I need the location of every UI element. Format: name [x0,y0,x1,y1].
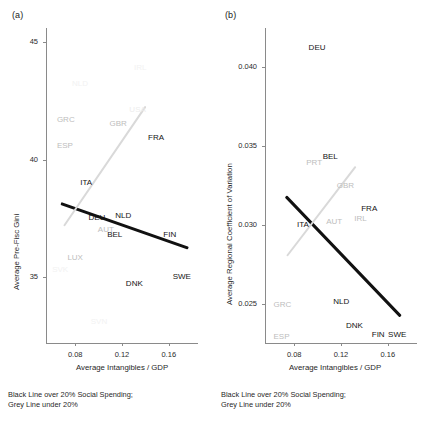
data-point-irl: IRL [134,64,146,72]
data-point-bel: BEL [323,153,338,161]
data-point-irl: IRL [354,215,366,223]
panel-a-y-tick [43,277,46,278]
panel-b-grey-trend [286,165,357,256]
panel-a-y-tick-label: 45 [0,37,38,46]
data-point-prt: PRT [306,159,322,167]
data-point-gbr: GBR [109,120,126,128]
panel-a-y-tick [43,160,46,161]
panel-a-caption-line2: Grey Line under 20% [8,400,78,411]
panel-a-x-tick-label: 0.08 [55,350,95,359]
panel-b-x-tick-label: 0.12 [321,350,361,359]
data-point-esp: ESP [274,333,290,341]
panel-b-y-axis-title: Average Regional Coefficient of Variatio… [225,163,234,305]
panel-a-y-tick-label: 35 [0,272,38,281]
panel-a-plot-area: 3540450.080.120.16IRLNLDUSAGRCGBRFRAESPI… [46,28,198,343]
panel-b-y-tick [262,304,265,305]
panel-b-y-tick [262,225,265,226]
panel-a: (a) Average Pre-Fisc Gini 3540450.080.12… [0,0,213,421]
data-point-grc: GRC [57,116,75,124]
panel-a-x-tick-label: 0.12 [102,350,142,359]
data-point-fin: FIN [372,331,385,339]
data-point-esp: ESP [57,142,73,150]
data-point-fin: FIN [163,231,176,239]
panel-b: (b) Average Regional Coefficient of Vari… [213,0,426,421]
data-point-aut: AUT [326,218,342,226]
figure-root: (a) Average Pre-Fisc Gini 3540450.080.12… [0,0,426,421]
panel-b-y-tick-label: 0.030 [217,220,257,229]
data-point-fra: FRA [148,134,164,142]
panel-a-tag: (a) [12,10,23,20]
panel-b-x-tick [388,343,389,346]
panel-b-x-tick-label: 0.08 [274,350,314,359]
panel-b-y-tick [262,146,265,147]
data-point-swe: SWE [173,273,191,281]
data-point-dnk: DNK [126,280,143,288]
panel-b-y-tick-label: 0.035 [217,141,257,150]
data-point-svn: SVN [91,318,107,326]
panel-b-x-tick-label: 0.16 [368,350,408,359]
data-point-dnk: DNK [346,322,363,330]
data-point-grc: GRC [274,301,292,309]
panel-a-y-tick [43,42,46,43]
data-point-fra: FRA [361,205,377,213]
panel-b-y-tick-label: 0.040 [217,62,257,71]
data-point-gbr: GBR [337,182,354,190]
panel-b-y-axis-line [265,28,266,343]
panel-a-x-tick-label: 0.16 [149,350,189,359]
data-point-bel: BEL [107,231,122,239]
panel-a-y-tick-label: 40 [0,155,38,164]
data-point-swe: SWE [388,331,406,339]
panel-a-x-tick [75,343,76,346]
panel-b-x-axis-title: Average Intangibles / GDP [289,363,381,372]
data-point-lux: LUX [67,254,83,262]
panel-b-x-tick [294,343,295,346]
panel-a-black-trend [61,202,189,249]
panel-b-y-tick-label: 0.025 [217,299,257,308]
data-point-nld: NLD [72,80,88,88]
data-point-nld: NLD [333,298,349,306]
data-point-nld: NLD [115,212,131,220]
panel-a-x-axis-title: Average Intangibles / GDP [76,363,168,372]
data-point-deu: DEU [88,214,105,222]
panel-b-plot-area: 0.0250.0300.0350.0400.080.120.16DEUBELPR… [265,28,417,343]
panel-a-y-axis-line [46,28,47,343]
data-point-svk: SVK [52,266,68,274]
data-point-deu: DEU [309,44,326,52]
panel-b-y-tick [262,67,265,68]
panel-b-x-tick [341,343,342,346]
panel-a-x-tick [122,343,123,346]
data-point-ita: ITA [297,221,309,229]
data-point-ita: ITA [80,179,92,187]
panel-b-tag: (b) [225,10,236,20]
panel-a-grey-trend [63,106,147,227]
panel-a-x-tick [169,343,170,346]
panel-b-caption-line2: Grey Line under 20% [221,400,291,411]
data-point-usa: USA [129,106,145,114]
